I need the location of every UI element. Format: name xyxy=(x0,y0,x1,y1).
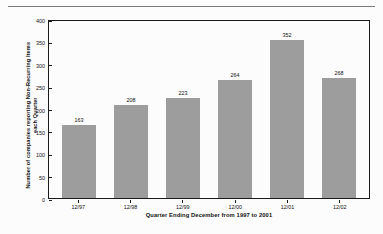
bar-series: 163208223264352268 xyxy=(49,21,369,198)
x-axis-tick-label: 12/02 xyxy=(323,200,357,212)
y-axis-tick-label: 100 xyxy=(36,152,49,158)
x-axis-tick-label: 12/97 xyxy=(61,200,95,212)
bar-value-label: 264 xyxy=(231,72,240,78)
top-divider-rule xyxy=(8,6,375,7)
y-axis-tick-label: 50 xyxy=(39,175,49,181)
y-axis-tick-label: 250 xyxy=(36,85,49,91)
x-axis-tick-label: 12/01 xyxy=(270,200,304,212)
x-axis-tick-mark xyxy=(182,200,183,203)
y-axis-tick-label: 150 xyxy=(36,130,49,136)
bar xyxy=(322,78,356,198)
bar xyxy=(62,125,96,198)
x-axis-tick-label: 12/99 xyxy=(166,200,200,212)
bar-column: 208 xyxy=(114,21,148,198)
y-axis-tick-label: 200 xyxy=(36,108,49,114)
chart-page: Number of companies reporting Non-Recurr… xyxy=(0,0,383,234)
x-axis-title: Quarter Ending December from 1997 to 200… xyxy=(48,212,370,218)
bar-value-label: 208 xyxy=(127,97,136,103)
bar-value-label: 163 xyxy=(75,117,84,123)
bar-column: 352 xyxy=(270,21,304,198)
bar-column: 264 xyxy=(218,21,252,198)
bar-column: 223 xyxy=(166,21,200,198)
bar-value-label: 223 xyxy=(179,90,188,96)
plot-area: 400350300250200150100500 163208223264352… xyxy=(48,20,370,199)
bar-column: 163 xyxy=(62,21,96,198)
x-axis-tick-label: 12/98 xyxy=(113,200,147,212)
bar-value-label: 268 xyxy=(335,70,344,76)
x-axis-tick-mark xyxy=(339,200,340,203)
bar-value-label: 352 xyxy=(283,32,292,38)
y-axis-tick-label: 400 xyxy=(36,18,49,24)
x-axis-ticks: 12/9712/9812/9912/0012/0112/02 xyxy=(48,200,370,212)
bar-column: 268 xyxy=(322,21,356,198)
x-axis-tick-mark xyxy=(235,200,236,203)
x-axis-tick-mark xyxy=(130,200,131,203)
bar xyxy=(270,40,304,198)
x-axis-tick-label: 12/00 xyxy=(218,200,252,212)
y-axis-tick-label: 350 xyxy=(36,40,49,46)
bar xyxy=(114,105,148,198)
y-axis-tick-label: 300 xyxy=(36,63,49,69)
x-axis-tick-mark xyxy=(78,200,79,203)
x-axis-tick-mark xyxy=(287,200,288,203)
bar xyxy=(218,80,252,198)
bar xyxy=(166,98,200,198)
